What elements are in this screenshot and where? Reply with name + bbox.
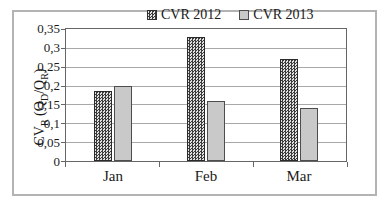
y-tick-label: 0,1 — [22, 117, 60, 130]
gridline — [66, 67, 346, 68]
x-axis-label-mar: Mar — [269, 169, 329, 184]
bar-cvr-2013-mar — [300, 108, 318, 161]
chart-figure: CVR (QD/QR) CVR 2012 CVR 2013 JanFebMar0… — [0, 0, 388, 203]
legend-item-cvr-2012: CVR 2012 — [147, 8, 221, 22]
x-tick-mark — [65, 162, 66, 167]
y-tick-label: 0,35 — [22, 22, 60, 35]
y-tick-label: 0 — [22, 155, 60, 168]
y-tick-label: 0,25 — [22, 60, 60, 73]
y-tick-label: 0,05 — [22, 136, 60, 149]
bar-cvr-2013-feb — [207, 101, 225, 161]
bar-cvr-2013-jan — [114, 86, 132, 161]
legend: CVR 2012 CVR 2013 — [147, 8, 314, 22]
y-tick-label: 0,3 — [22, 41, 60, 54]
y-tick-label: 0,15 — [22, 98, 60, 111]
gridline — [66, 86, 346, 87]
x-tick-mark — [159, 162, 160, 167]
bar-cvr-2012-jan — [94, 91, 112, 161]
bar-cvr-2012-mar — [280, 59, 298, 161]
y-tick-mark — [61, 123, 65, 124]
plot-area — [65, 28, 347, 162]
y-tick-mark — [61, 142, 65, 143]
y-tick-mark — [61, 48, 65, 49]
y-tick-label: 0,2 — [22, 79, 60, 92]
y-tick-mark — [61, 86, 65, 87]
x-axis-label-jan: Jan — [83, 169, 143, 184]
legend-label-cvr-2012: CVR 2012 — [161, 8, 221, 22]
x-tick-mark — [347, 162, 348, 167]
gridline — [66, 48, 346, 49]
legend-marker-cvr-2013-icon — [239, 10, 249, 20]
y-tick-mark — [61, 67, 65, 68]
x-axis-label-feb: Feb — [176, 169, 236, 184]
legend-marker-cvr-2012-icon — [147, 10, 157, 20]
y-tick-mark — [61, 29, 65, 30]
bar-cvr-2012-feb — [187, 37, 205, 161]
legend-item-cvr-2013: CVR 2013 — [239, 8, 313, 22]
x-tick-mark — [253, 162, 254, 167]
y-tick-mark — [61, 104, 65, 105]
legend-label-cvr-2013: CVR 2013 — [253, 8, 313, 22]
